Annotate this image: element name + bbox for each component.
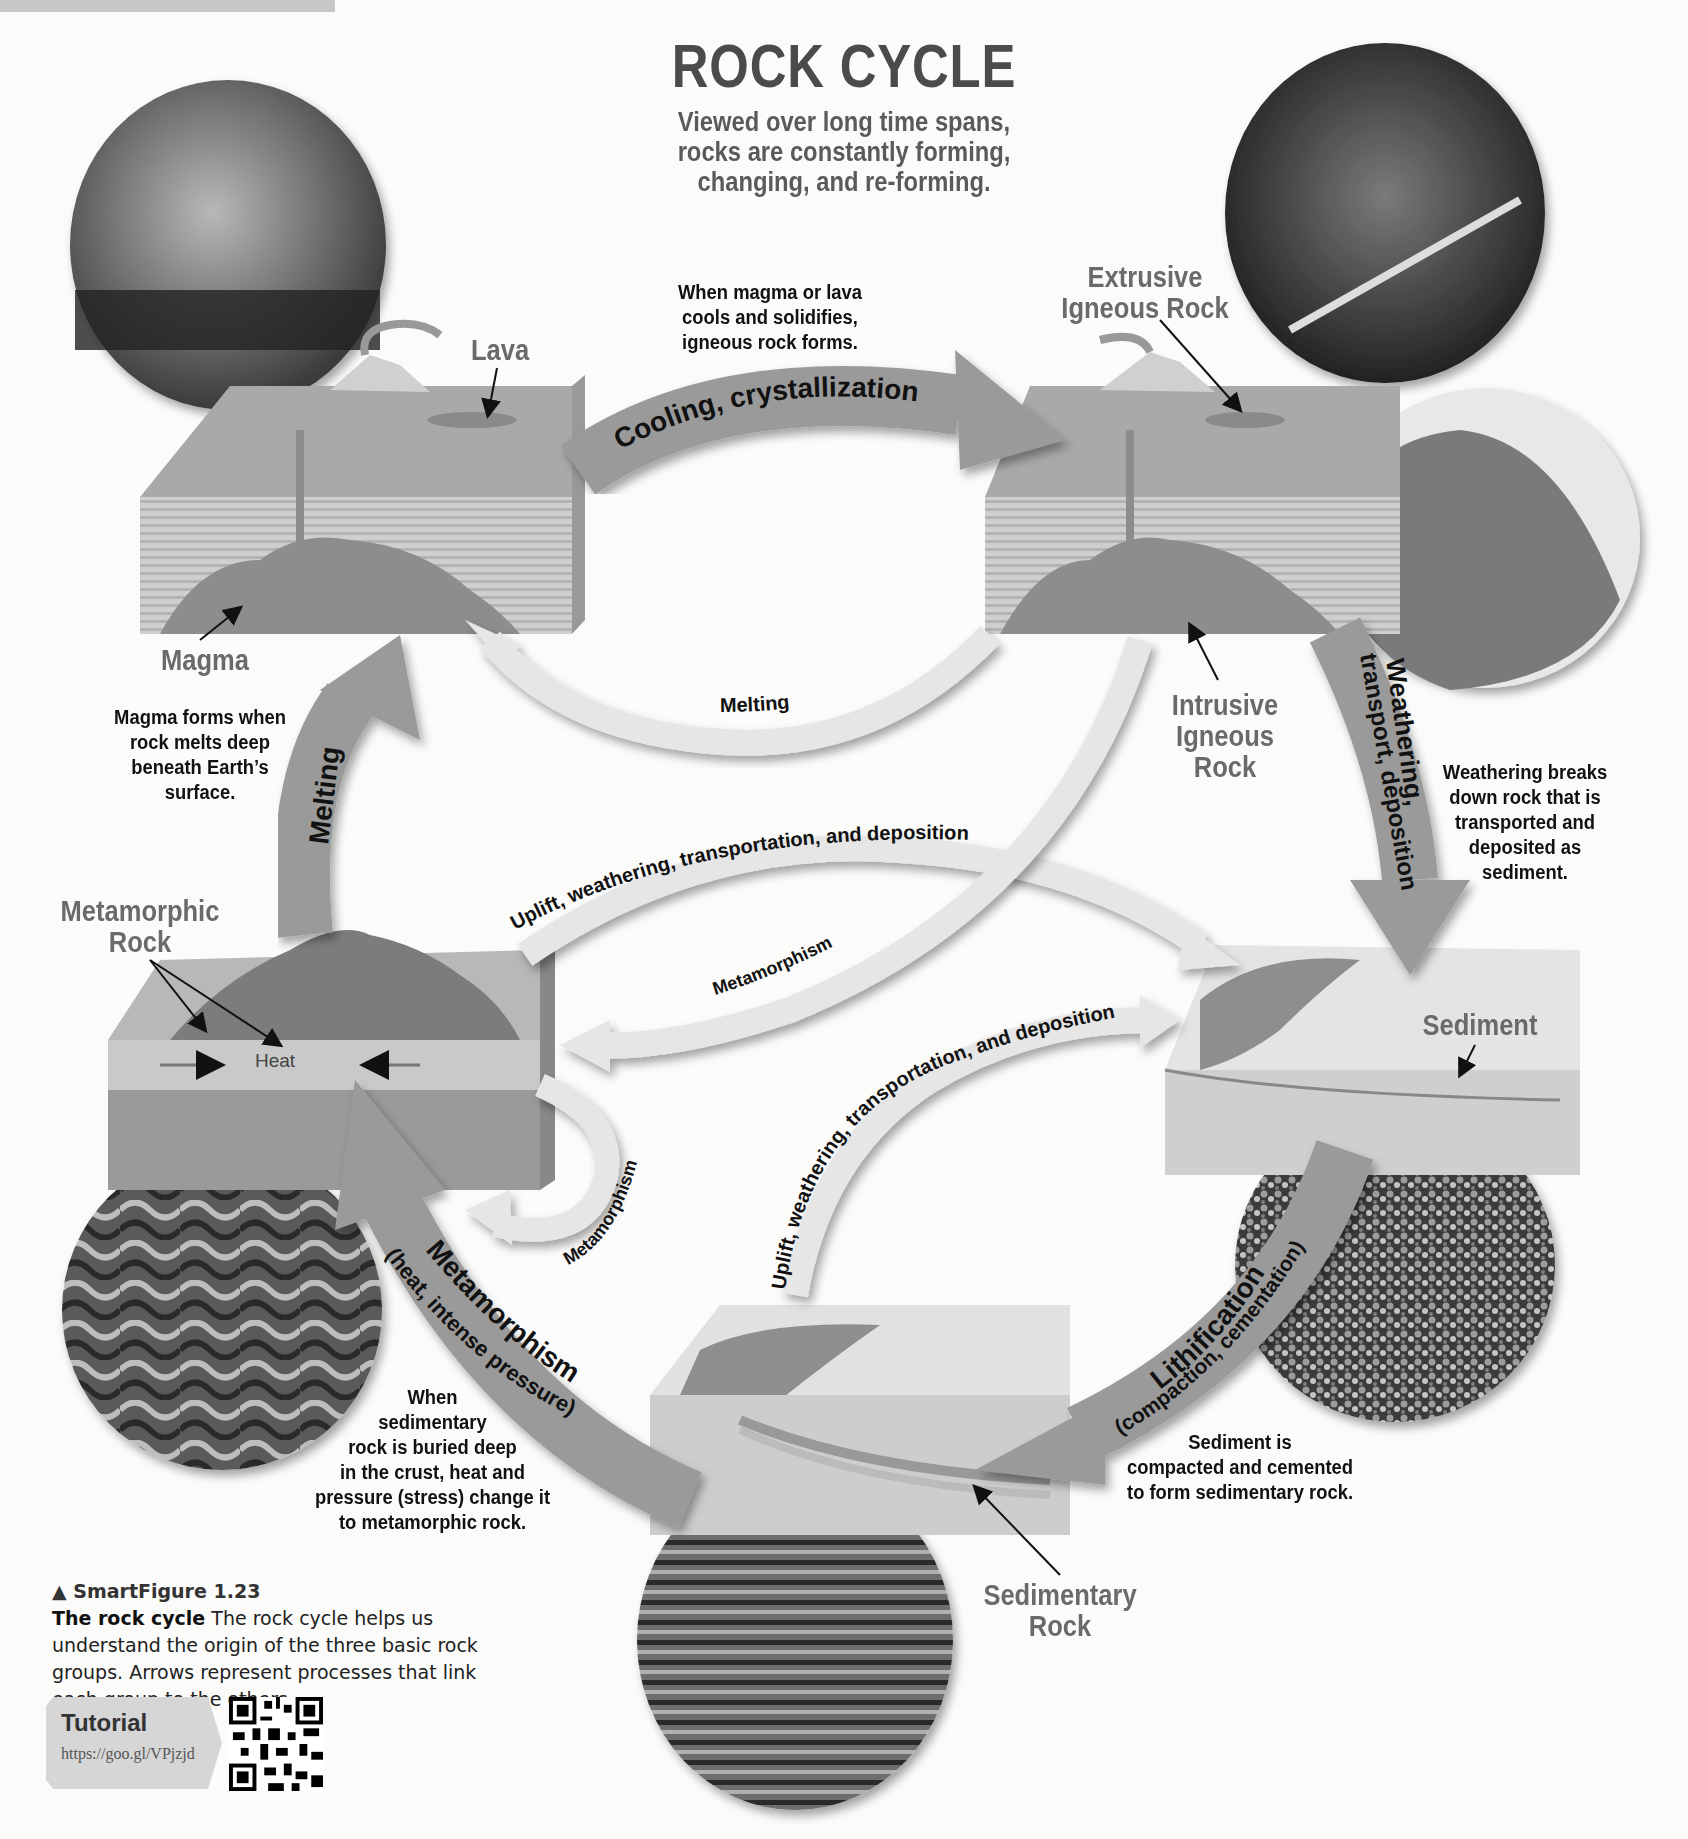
label-magma: Magma	[148, 645, 262, 676]
label-extrusive-igneous-rock: ExtrusiveIgneous Rock	[1057, 262, 1233, 324]
note-weathering: Weathering breaksdown rock that istransp…	[1433, 760, 1617, 885]
qr-code-icon[interactable]	[228, 1697, 324, 1791]
block-sedimentary-rock	[650, 1305, 1070, 1535]
diagram-subtitle: Viewed over long time spans, rocks are c…	[101, 107, 1586, 197]
rock-cycle-diagram: Cooling, crystallization Melting Melting…	[0, 0, 1688, 1839]
arrow-melting-top	[465, 620, 990, 743]
tutorial-label: Tutorial	[61, 1709, 147, 1737]
block-mountain-metamorphic	[108, 930, 555, 1190]
tutorial-link[interactable]: Tutorial https://goo.gl/VPjzjd	[46, 1697, 222, 1789]
label-intrusive-igneous-rock: IntrusiveIgneousRock	[1168, 690, 1282, 783]
tutorial-url[interactable]: https://goo.gl/VPjzjd	[61, 1745, 195, 1763]
note-metamorphism: Whensedimentaryrock is buried deepin the…	[301, 1385, 563, 1535]
label-lava: Lava	[460, 335, 539, 366]
note-cooling: When magma or lavacools and solidifies,i…	[650, 280, 889, 355]
figure-caption: ▲ SmartFigure 1.23 The rock cycle The ro…	[52, 1578, 492, 1713]
note-magma: Magma forms whenrock melts deepbeneath E…	[103, 705, 296, 805]
block-sediment	[1165, 945, 1580, 1175]
label-metamorphic-rock: MetamorphicRock	[52, 896, 228, 958]
block-volcano-right	[985, 337, 1400, 634]
label-sedimentary-rock: SedimentaryRock	[981, 1580, 1139, 1642]
label-melting-top: Melting	[720, 690, 790, 716]
diagram-title: ROCK CYCLE	[152, 30, 1536, 101]
diagram-header: ROCK CYCLE Viewed over long time spans, …	[0, 30, 1688, 197]
figure-number: ▲ SmartFigure 1.23	[52, 1578, 492, 1605]
label-heat: Heat	[255, 1050, 295, 1072]
note-lithification: Sediment iscompacted and cementedto form…	[1111, 1430, 1369, 1505]
caption-title: The rock cycle	[52, 1607, 205, 1629]
label-sediment: Sediment	[1418, 1010, 1541, 1041]
